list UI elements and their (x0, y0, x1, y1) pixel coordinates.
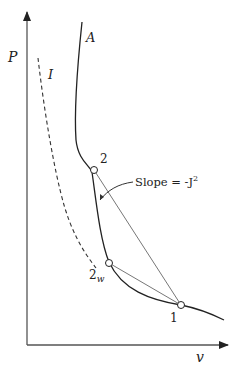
slope-annotation: Slope = -J2 (135, 174, 198, 189)
point-1-label: 1 (170, 311, 178, 325)
rayleigh-hugoniot-diagram: P v A I 2 2w 1 Slope = -J2 (0, 0, 236, 377)
point-2w-label: 2w (89, 268, 105, 284)
p-axis-label: P (7, 49, 18, 65)
point-1 (178, 302, 185, 309)
curve-a-label: A (85, 30, 95, 45)
point-2-label: 2 (100, 152, 108, 166)
dashed-curve-i (38, 58, 96, 268)
slope-pointer-arrowhead (100, 194, 104, 200)
rayleigh-line-2w-1 (109, 263, 181, 305)
rayleigh-line-2-1 (94, 170, 181, 305)
point-2 (91, 167, 98, 174)
point-2w (106, 260, 113, 267)
v-axis-label: v (196, 349, 204, 365)
slope-pointer-arrow (100, 182, 133, 200)
curve-i-label: I (47, 67, 54, 82)
